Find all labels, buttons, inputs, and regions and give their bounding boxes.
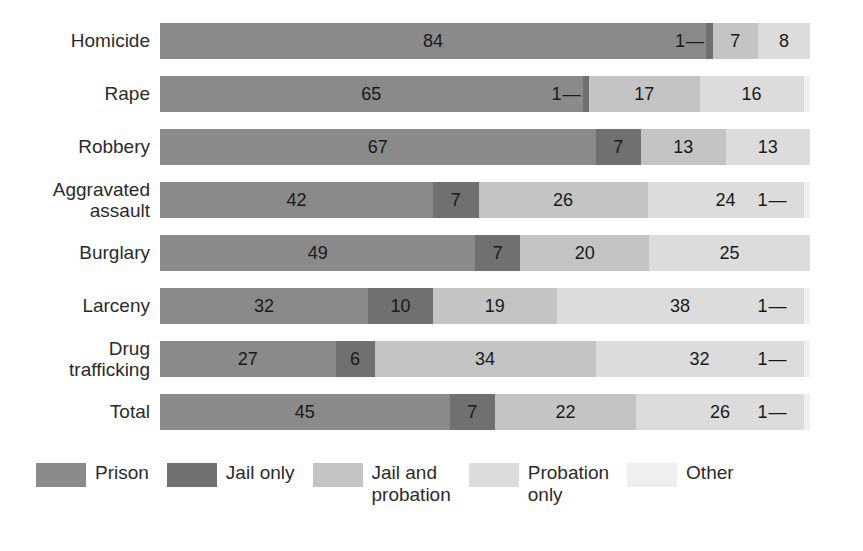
chart-legend: PrisonJail onlyJail and probationProbati… <box>36 462 836 506</box>
legend-swatch-icon <box>36 463 86 487</box>
legend-swatch-icon <box>627 463 677 487</box>
segment-value: 32 <box>689 341 709 377</box>
segment-value: 19 <box>485 288 505 324</box>
category-label: Aggravated assault <box>0 179 160 221</box>
segment-value: 26 <box>710 394 730 430</box>
segment-value: 7 <box>451 182 461 218</box>
segment-value: 49 <box>308 235 328 271</box>
bar-segment: 7 <box>450 394 495 430</box>
category-label: Drug trafficking <box>0 338 160 380</box>
segment-value: 13 <box>673 129 693 165</box>
category-label: Total <box>0 401 160 422</box>
stacked-bar: 6511716 <box>160 76 810 112</box>
bar-segment: 34 <box>375 341 596 377</box>
segment-value: 27 <box>238 341 258 377</box>
bar-segment: 7 <box>475 235 520 271</box>
stacked-bar: 27634321 <box>160 341 810 377</box>
category-label: Larceny <box>0 295 160 316</box>
segment-value: 25 <box>720 235 740 271</box>
bar-segment: 1 <box>804 288 811 324</box>
chart-row: Total45722261 <box>0 385 863 438</box>
bar-segment: 25 <box>649 235 810 271</box>
segment-value: 84 <box>423 23 443 59</box>
bar-segment: 45 <box>160 394 450 430</box>
legend-swatch-icon <box>469 463 519 487</box>
segment-value: 67 <box>368 129 388 165</box>
segment-value: 1 <box>675 23 706 59</box>
legend-swatch-icon <box>313 463 363 487</box>
category-label: Burglary <box>0 242 160 263</box>
bar-segment: 1 <box>804 341 811 377</box>
bar-segment: 32 <box>160 288 368 324</box>
legend-item[interactable]: Jail and probation <box>313 462 451 506</box>
bar-segment: 13 <box>641 129 726 165</box>
category-label: Rape <box>0 83 160 104</box>
segment-value: 16 <box>741 76 761 112</box>
segment-value: 34 <box>475 341 495 377</box>
segment-value: 1 <box>758 341 787 377</box>
legend-label: Other <box>686 462 734 484</box>
bar-segment: 19 <box>433 288 557 324</box>
bar-segment: 49 <box>160 235 475 271</box>
segment-value: 22 <box>555 394 575 430</box>
legend-item[interactable]: Jail only <box>167 462 295 487</box>
segment-value: 7 <box>467 394 477 430</box>
bar-segment: 26 <box>479 182 648 218</box>
chart-row: Robbery6771313 <box>0 120 863 173</box>
segment-value: 1 <box>551 76 582 112</box>
chart-row: Homicide84178 <box>0 14 863 67</box>
bar-segment: 13 <box>726 129 811 165</box>
segment-value: 20 <box>575 235 595 271</box>
bar-segment: 84 <box>160 23 706 59</box>
segment-value: 10 <box>390 288 410 324</box>
legend-item[interactable]: Other <box>627 462 734 487</box>
bar-segment <box>804 76 811 112</box>
segment-value: 1 <box>758 394 787 430</box>
bar-segment: 6 <box>336 341 375 377</box>
segment-value: 13 <box>758 129 778 165</box>
stacked-bar: 45722261 <box>160 394 810 430</box>
chart-row: Larceny321019381 <box>0 279 863 332</box>
segment-value: 1 <box>758 182 787 218</box>
chart-row: Drug trafficking27634321 <box>0 332 863 385</box>
segment-value: 26 <box>553 182 573 218</box>
segment-value: 6 <box>350 341 360 377</box>
chart-plot-area: Homicide84178Rape6511716Robbery6771313Ag… <box>0 14 863 438</box>
category-label: Robbery <box>0 136 160 157</box>
bar-segment: 17 <box>589 76 700 112</box>
segment-value: 7 <box>493 235 503 271</box>
bar-segment: 7 <box>596 129 642 165</box>
bar-segment: 7 <box>433 182 479 218</box>
stacked-bar-chart: Homicide84178Rape6511716Robbery6771313Ag… <box>0 0 863 551</box>
stacked-bar: 42726241 <box>160 182 810 218</box>
bar-segment: 67 <box>160 129 596 165</box>
bar-segment: 27 <box>160 341 336 377</box>
bar-segment: 22 <box>495 394 637 430</box>
bar-segment: 20 <box>520 235 649 271</box>
legend-item[interactable]: Probation only <box>469 462 609 506</box>
stacked-bar: 321019381 <box>160 288 810 324</box>
segment-value: 24 <box>715 182 735 218</box>
bar-segment: 1 <box>804 394 810 430</box>
segment-value: 1 <box>758 288 787 324</box>
bar-segment: 42 <box>160 182 433 218</box>
bar-segment: 7 <box>713 23 759 59</box>
bar-segment: 1 <box>804 182 811 218</box>
legend-swatch-icon <box>167 463 217 487</box>
legend-label: Prison <box>95 462 149 484</box>
stacked-bar: 4972025 <box>160 235 810 271</box>
chart-row: Aggravated assault42726241 <box>0 173 863 226</box>
segment-value: 45 <box>295 394 315 430</box>
segment-value: 7 <box>613 129 623 165</box>
legend-label: Jail only <box>226 462 295 484</box>
segment-value: 17 <box>634 76 654 112</box>
segment-value: 42 <box>286 182 306 218</box>
stacked-bar: 84178 <box>160 23 810 59</box>
segment-value: 38 <box>670 288 690 324</box>
category-label: Homicide <box>0 30 160 51</box>
stacked-bar: 6771313 <box>160 129 810 165</box>
legend-item[interactable]: Prison <box>36 462 149 487</box>
legend-label: Jail and probation <box>372 462 451 506</box>
segment-value: 65 <box>361 76 381 112</box>
bar-segment: 10 <box>368 288 433 324</box>
